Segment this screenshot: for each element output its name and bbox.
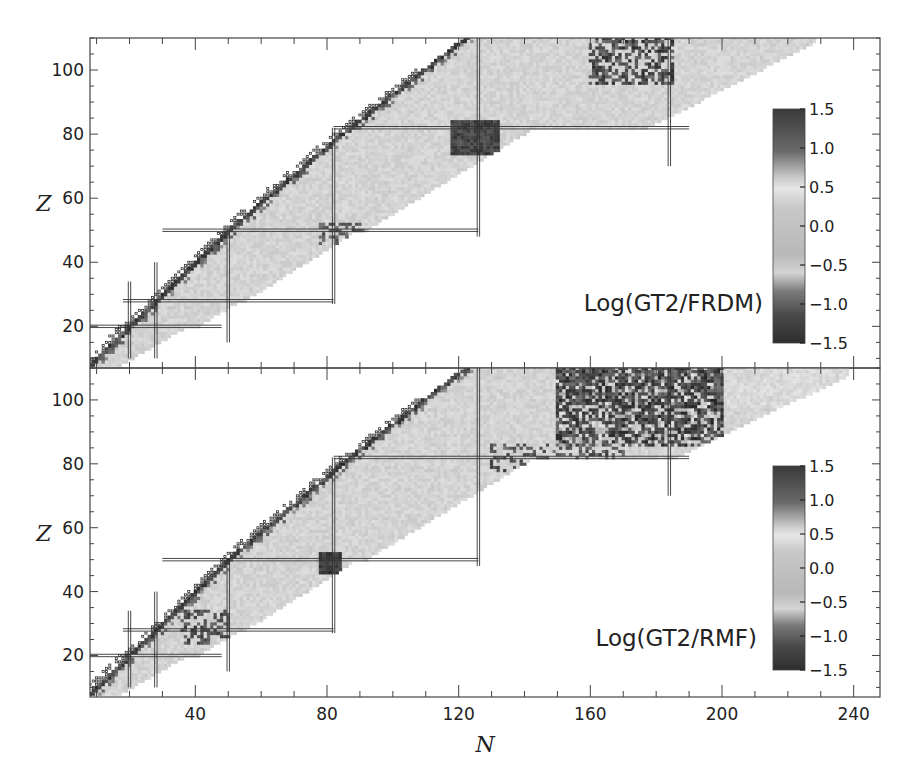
y-tick-label: 40: [62, 252, 84, 272]
colorbar-tick-label: 1.0: [809, 491, 834, 510]
colorbar-tick-label: −0.5: [809, 256, 848, 275]
x-tick-label: 240: [837, 704, 869, 724]
x-tick-label: 40: [185, 704, 207, 724]
x-tick-label: 160: [574, 704, 606, 724]
panel-bottom: 20406080100Z1.51.00.50.0−0.5−1.0−1.5Log(…: [35, 366, 880, 697]
y-tick-label: 100: [52, 60, 84, 80]
colorbar-tick-label: 1.5: [809, 100, 834, 119]
x-axis-label: N: [474, 732, 495, 757]
colorbar-tick-label: −1.5: [809, 334, 848, 353]
y-tick-label: 60: [62, 518, 84, 538]
y-axis-label: Z: [35, 521, 52, 546]
x-tick-label: 120: [442, 704, 474, 724]
y-tick-label: 60: [62, 188, 84, 208]
y-tick-label: 100: [52, 390, 84, 410]
x-tick-label: 200: [706, 704, 738, 724]
colorbar-tick-label: 0.5: [809, 525, 834, 544]
heatmap-cells: [82, 36, 816, 366]
colorbar-tick-label: 0.0: [809, 217, 834, 236]
y-axis-label: Z: [35, 191, 52, 216]
y-tick-label: 20: [62, 316, 84, 336]
panel-top: 20406080100Z1.51.00.50.0−0.5−1.0−1.5Log(…: [35, 36, 880, 368]
colorbar-tick-label: −1.0: [809, 295, 848, 314]
colorbar-tick-label: 1.0: [809, 139, 834, 158]
y-tick-label: 20: [62, 645, 84, 665]
colorbar-tick-label: 0.0: [809, 559, 834, 578]
y-tick-label: 40: [62, 582, 84, 602]
colorbar-tick-label: 1.5: [809, 457, 834, 476]
x-tick-label: 80: [316, 704, 338, 724]
colorbar-tick-label: 0.5: [809, 178, 834, 197]
y-tick-label: 80: [62, 124, 84, 144]
y-tick-label: 80: [62, 454, 84, 474]
panel-annotation: Log(GT2/RMF): [595, 625, 757, 651]
figure: 20406080100Z1.51.00.50.0−0.5−1.0−1.5Log(…: [0, 0, 908, 773]
panel-annotation: Log(GT2/FRDM): [584, 290, 763, 316]
colorbar-tick-label: −1.5: [809, 661, 848, 680]
colorbar-tick-label: −1.0: [809, 627, 848, 646]
colorbar-tick-label: −0.5: [809, 593, 848, 612]
x-axis: 4080120160200240N: [185, 704, 870, 757]
